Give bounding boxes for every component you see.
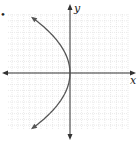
y-axis-arrow-down [68,134,73,140]
chart: x y • [0,0,138,144]
x-axis-arrow-left [2,71,8,76]
bullet-marker: • [0,9,6,20]
grid [8,14,128,130]
x-axis-label: x [130,74,137,87]
y-axis-label: y [73,2,81,15]
y-axis-arrow-up [68,4,73,10]
